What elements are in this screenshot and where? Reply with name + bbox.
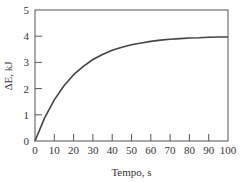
y-tick-label: 3 <box>24 56 30 68</box>
x-tick-label: 10 <box>49 144 61 156</box>
axis-ticks: 0102030405060708090100012345 <box>24 4 237 156</box>
y-tick-label: 2 <box>24 83 30 95</box>
y-tick-label: 5 <box>24 4 30 16</box>
data-series <box>35 37 228 141</box>
x-tick-label: 0 <box>32 144 38 156</box>
x-tick-label: 70 <box>165 144 177 156</box>
x-tick-label: 100 <box>220 144 237 156</box>
line-chart: 0102030405060708090100012345 Tempo, s ΔE… <box>0 0 244 182</box>
y-tick-label: 0 <box>24 135 30 147</box>
x-tick-label: 30 <box>87 144 99 156</box>
x-tick-label: 80 <box>184 144 196 156</box>
x-tick-label: 20 <box>68 144 80 156</box>
y-tick-label: 4 <box>24 30 30 42</box>
y-axis-label: ΔE, kJ <box>2 61 14 91</box>
x-axis-label: Tempo, s <box>111 166 151 178</box>
x-tick-label: 60 <box>145 144 157 156</box>
x-tick-label: 40 <box>107 144 119 156</box>
x-tick-label: 50 <box>126 144 138 156</box>
plot-frame <box>35 10 228 141</box>
y-tick-label: 1 <box>24 109 30 121</box>
x-tick-label: 90 <box>203 144 215 156</box>
plot-border <box>35 10 228 141</box>
series-line <box>35 37 228 141</box>
